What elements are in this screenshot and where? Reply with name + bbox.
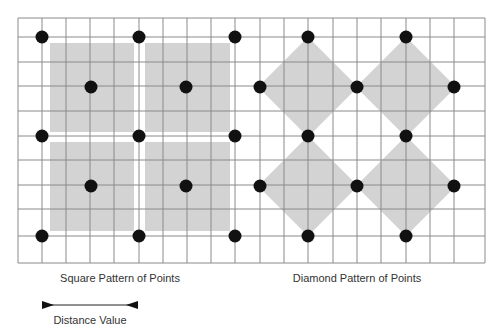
point-dot (448, 180, 461, 193)
point-dot (229, 130, 242, 143)
point-dot (36, 130, 49, 143)
point-dot (229, 230, 242, 243)
point-dot (36, 31, 49, 44)
point-dot (133, 130, 146, 143)
point-dot (254, 180, 267, 193)
arrowhead-right-icon (126, 301, 138, 309)
point-dot (351, 180, 364, 193)
point-dot (400, 130, 413, 143)
point-dot (36, 230, 49, 243)
point-dot (448, 81, 461, 94)
point-dot (400, 31, 413, 44)
point-dot (302, 31, 315, 44)
point-dot (302, 230, 315, 243)
point-dot (351, 81, 364, 94)
distance-value-label: Distance Value (53, 314, 126, 326)
arrowhead-left-icon (42, 301, 54, 309)
point-dot (229, 31, 242, 44)
point-dot (400, 230, 413, 243)
point-dot (302, 130, 315, 143)
point-dot (180, 180, 193, 193)
point-dot (254, 81, 267, 94)
square-pattern-label: Square Pattern of Points (60, 272, 180, 284)
point-dot (180, 81, 193, 94)
point-dot (85, 180, 98, 193)
point-dot (133, 230, 146, 243)
point-dot (133, 31, 146, 44)
diamond-pattern-label: Diamond Pattern of Points (293, 272, 421, 284)
point-dot (85, 81, 98, 94)
diagram: Square Pattern of Points Diamond Pattern… (0, 0, 503, 336)
pattern-figure (0, 0, 503, 336)
